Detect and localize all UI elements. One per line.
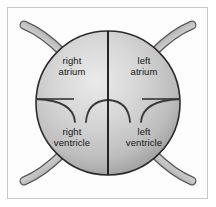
vessel-bottom-right xyxy=(154,154,192,181)
vessel-top-right xyxy=(154,25,192,52)
heart-diagram-canvas xyxy=(0,0,216,207)
vessel-top-left xyxy=(24,25,62,52)
vessel-bottom-left xyxy=(24,154,62,181)
heart-diagram-figure: right atrium left atrium right ventricle… xyxy=(0,0,216,207)
